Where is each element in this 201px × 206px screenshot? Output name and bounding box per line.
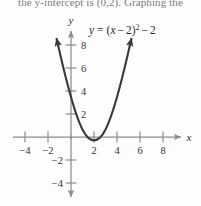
x-ticklabel-4: 4 [114, 145, 120, 156]
eq-minus-2: − [141, 24, 148, 36]
parabola-left-arrowhead [56, 38, 58, 47]
svg-text:y=(x−2)2−2: y=(x−2)2−2 [88, 23, 156, 37]
y-ticklabel--2: −2 [52, 155, 63, 166]
x-ticklabel--4: −4 [19, 145, 31, 156]
y-ticklabel-2: 2 [81, 109, 86, 120]
parabola-curve [57, 41, 131, 140]
x-ticklabel-6: 6 [137, 145, 142, 156]
x-ticklabel-2: 2 [91, 145, 96, 156]
y-ticklabel--4: −4 [52, 178, 64, 189]
y-ticklabel-4: 4 [81, 86, 87, 97]
eq-var: x [109, 24, 116, 36]
running-text-clipped: the y-intercept is (0,2). Graphing the [0, 0, 201, 9]
parabola-graph: −4 −2 2 4 6 8 8 6 4 2 −2 −4 x y [0, 12, 201, 206]
parabola-right-arrowhead [130, 38, 132, 47]
eq-vshift: 2 [150, 24, 156, 36]
eq-lhs: y [88, 24, 95, 37]
running-text: the y-intercept is (0,2). Graphing the [18, 0, 183, 8]
x-ticklabel-8: 8 [160, 145, 165, 156]
axes-group [13, 31, 181, 197]
eq-exponent: 2 [136, 23, 140, 32]
x-axis-label: x [186, 131, 192, 143]
y-axis-label: y [68, 14, 74, 26]
eq-equals: = [97, 24, 104, 36]
x-ticklabels-group: −4 −2 2 4 6 8 [19, 145, 165, 156]
equation-annotation: y=(x−2)2−2 [88, 23, 156, 37]
parabola-curve-group [56, 38, 131, 140]
figure-page: the y-intercept is (0,2). Graphing the [0, 0, 201, 206]
y-ticklabel-8: 8 [81, 40, 86, 51]
eq-minus-1: − [118, 24, 125, 36]
y-ticklabel-6: 6 [81, 63, 86, 74]
